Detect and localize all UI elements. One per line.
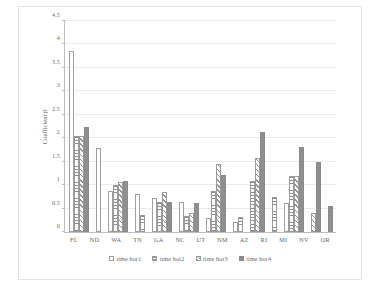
- x-axis-tick-label: GA: [154, 233, 164, 243]
- x-axis-tick-label: NV: [299, 233, 309, 243]
- bar-groups: [65, 21, 336, 232]
- bar-group: [206, 21, 226, 232]
- legend-item[interactable]: time hor4: [239, 255, 271, 262]
- y-axis-tick-label: 0.5: [52, 198, 60, 205]
- bar-group: [179, 21, 199, 232]
- bar: [328, 206, 333, 232]
- x-axis-tick-label: NM: [217, 233, 228, 243]
- legend-swatch-icon: [152, 256, 157, 261]
- bar: [194, 203, 199, 232]
- bar-group: [233, 21, 243, 232]
- bar-group: [284, 21, 304, 232]
- bar: [238, 217, 243, 232]
- x-axis-tick-label: WA: [111, 233, 121, 243]
- bar-group: [311, 21, 321, 232]
- bar-group: [152, 21, 172, 232]
- y-axis-tick-label: 4: [57, 34, 60, 41]
- plot-area: 00.511.522.533.544.5 Coefficient β: [64, 21, 336, 233]
- bar: [272, 197, 277, 232]
- x-axis-tick-label: OR: [321, 233, 330, 243]
- legend-swatch-icon: [239, 256, 244, 261]
- bar-group: [328, 21, 333, 232]
- x-axis-tick-label: NC: [175, 233, 184, 243]
- bar: [260, 132, 265, 232]
- legend-label: time hor4: [246, 255, 271, 262]
- x-axis-tick-label: RI: [261, 233, 268, 243]
- y-axis-tick-label: 0: [57, 222, 60, 229]
- bar: [299, 147, 304, 232]
- legend-item[interactable]: time hor1: [109, 255, 141, 262]
- bar: [123, 181, 128, 232]
- legend-label: time hor3: [203, 255, 228, 262]
- bar: [316, 162, 321, 232]
- legend-item[interactable]: time hor2: [152, 255, 184, 262]
- bar-group: [135, 21, 145, 232]
- legend-item[interactable]: time hor3: [196, 255, 228, 262]
- chart-figure: 00.511.522.533.544.5 Coefficient β FLNDW…: [18, 6, 362, 280]
- bar: [140, 215, 145, 232]
- x-axis-tick-label: UT: [197, 233, 206, 243]
- bar-group: [250, 21, 265, 232]
- bar-group: [96, 21, 101, 232]
- y-axis-label: Coefficient β: [41, 109, 48, 144]
- y-axis-tick-label: 1: [57, 175, 60, 182]
- x-axis-tick-label: FL: [70, 233, 78, 243]
- x-axis-tick-label: TN: [133, 233, 142, 243]
- bar-group: [272, 21, 277, 232]
- x-axis-tick-label: AZ: [240, 233, 249, 243]
- chart-legend: time hor1time hor2time hor3time hor4: [19, 255, 361, 262]
- bar: [167, 202, 172, 232]
- x-axis-ticks: FLNDWATNGANCUTNMAZRIMINVOR: [64, 233, 336, 247]
- y-axis-tick-label: 1.5: [52, 151, 60, 158]
- bar: [96, 148, 101, 232]
- x-axis-tick-label: ND: [90, 233, 100, 243]
- legend-label: time hor1: [116, 255, 141, 262]
- legend-swatch-icon: [196, 256, 201, 261]
- x-axis-tick-label: MI: [279, 233, 287, 243]
- y-axis-tick-label: 2: [57, 128, 60, 135]
- bar-group: [108, 21, 128, 232]
- y-axis-tick-label: 3.5: [52, 57, 60, 64]
- y-axis-tick-label: 2.5: [52, 104, 60, 111]
- legend-swatch-icon: [109, 256, 114, 261]
- bar: [84, 127, 89, 233]
- y-axis-tick-label: 3: [57, 81, 60, 88]
- legend-label: time hor2: [160, 255, 185, 262]
- bar-group: [69, 21, 89, 232]
- y-axis-tick-label: 4.5: [52, 11, 60, 18]
- bar: [221, 175, 226, 232]
